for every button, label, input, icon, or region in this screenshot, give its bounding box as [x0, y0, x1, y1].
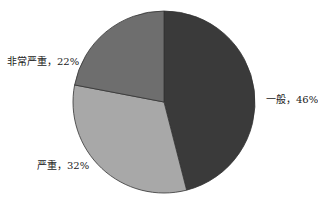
- pie-slices: [73, 11, 255, 193]
- slice-label-feichang-yanzhong: 非常严重，22%: [7, 53, 79, 68]
- slice-label-yiban: 一般，46%: [266, 91, 318, 106]
- slice-label-yanzhong: 严重，32%: [37, 157, 89, 172]
